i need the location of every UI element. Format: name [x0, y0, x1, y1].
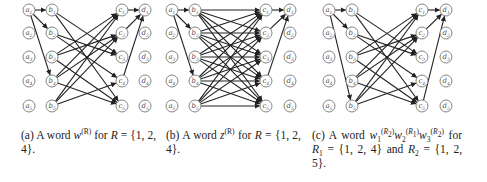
node-c4: c4: [260, 75, 272, 87]
edge-arrow: [124, 16, 143, 75]
caption-superscript: (R): [225, 127, 235, 136]
node-a4: a4: [23, 75, 35, 87]
caption-label: (c): [312, 129, 325, 141]
node-b1: b1: [189, 4, 201, 16]
node-a3: a3: [166, 51, 178, 63]
caption-superscript: (R): [81, 127, 91, 136]
edge-arrow: [56, 15, 117, 77]
node-a1: a1: [166, 4, 178, 16]
caption-label: (a): [21, 129, 34, 141]
node-d4: d4: [440, 75, 452, 87]
node-c2: c2: [260, 27, 272, 39]
node-c5: c5: [260, 100, 272, 112]
node-b4: b4: [189, 75, 201, 87]
node-c1: c1: [116, 4, 128, 16]
node-b3: b3: [189, 51, 201, 63]
caption-text: A word: [182, 129, 217, 141]
node-c3: c3: [416, 51, 428, 63]
caption-var: R: [111, 129, 118, 141]
node-c5: c5: [116, 100, 128, 112]
caption-text: and: [387, 143, 404, 155]
caption-var: R: [255, 129, 262, 141]
edge-arrow: [356, 15, 417, 77]
node-a3: a3: [323, 51, 335, 63]
node-b2: b2: [46, 27, 58, 39]
node-b2: b2: [189, 27, 201, 39]
node-a2: a2: [23, 27, 35, 39]
node-c4: c4: [116, 75, 128, 87]
node-c2: c2: [116, 27, 128, 39]
node-c2: c2: [416, 27, 428, 39]
caption-word-product: w1(R2)w2(R1)w3(R2): [370, 129, 444, 141]
node-b3: b3: [346, 51, 358, 63]
caption-var: R: [312, 143, 319, 155]
caption-text: A word: [329, 129, 365, 141]
caption-text: A word: [36, 129, 70, 141]
node-b5: b5: [346, 100, 358, 112]
node-c4: c4: [416, 75, 428, 87]
caption-text: for: [94, 129, 107, 141]
node-a5: a5: [166, 100, 178, 112]
node-c5: c5: [416, 100, 428, 112]
node-d4: d4: [139, 75, 151, 87]
node-a2: a2: [166, 27, 178, 39]
node-c1: c1: [416, 4, 428, 16]
edge-arrow: [126, 15, 140, 29]
node-a1: a1: [323, 4, 335, 16]
node-d1: d1: [139, 4, 151, 16]
node-d5: d5: [139, 100, 151, 112]
caption-a: (a) A word w(R) for R = {1, 2, 4}.: [21, 128, 156, 156]
edge-arrow: [174, 16, 193, 75]
caption-text: for: [238, 129, 251, 141]
node-a4: a4: [166, 75, 178, 87]
edge-arrow: [356, 38, 417, 102]
caption-subscript: 2: [415, 149, 419, 158]
node-b5: b5: [46, 100, 58, 112]
edge-arrow: [268, 16, 288, 75]
edge-arrow: [176, 14, 190, 28]
node-d5: d5: [440, 100, 452, 112]
diagram-canvas: a1a2a3a4a5b1b2b3b4b5c1c2c3c4c5d1d2d3d4d5…: [0, 0, 487, 120]
node-a3: a3: [23, 51, 35, 63]
node-c3: c3: [260, 51, 272, 63]
node-b1: b1: [46, 4, 58, 16]
caption-var: R: [408, 143, 415, 155]
edges-layer: [31, 10, 445, 106]
node-b4: b4: [346, 75, 358, 87]
node-b2: b2: [346, 27, 358, 39]
edge-arrow: [333, 14, 347, 28]
node-b1: b1: [346, 4, 358, 16]
node-d3: d3: [139, 51, 151, 63]
node-d3: d3: [284, 51, 296, 63]
edge-arrow: [56, 38, 117, 102]
node-d2: d2: [284, 27, 296, 39]
node-d1: d1: [284, 4, 296, 16]
caption-label: (b): [166, 129, 179, 141]
node-a1: a1: [23, 4, 35, 16]
edge-arrow: [33, 14, 47, 28]
node-c1: c1: [260, 4, 272, 16]
caption-c: (c) A word w1(R2)w2(R1)w3(R2) for R1 = {…: [312, 128, 462, 170]
node-d5: d5: [284, 100, 296, 112]
node-a5: a5: [23, 100, 35, 112]
node-b5: b5: [189, 100, 201, 112]
caption-text: for: [449, 129, 462, 141]
node-d3: d3: [440, 51, 452, 63]
node-d1: d1: [440, 4, 452, 16]
node-a2: a2: [323, 27, 335, 39]
node-d4: d4: [284, 75, 296, 87]
node-d2: d2: [139, 27, 151, 39]
edge-arrow: [426, 14, 441, 28]
node-a5: a5: [323, 100, 335, 112]
edge-arrow: [270, 14, 285, 28]
caption-b: (b) A word z(R) for R = {1, 2, 4}.: [166, 128, 301, 156]
node-c3: c3: [116, 51, 128, 63]
node-b3: b3: [46, 51, 58, 63]
node-a4: a4: [323, 75, 335, 87]
node-b4: b4: [46, 75, 58, 87]
node-d2: d2: [440, 27, 452, 39]
caption-set: = {1, 2, 4}: [327, 143, 382, 155]
edge-arrow: [31, 16, 50, 75]
